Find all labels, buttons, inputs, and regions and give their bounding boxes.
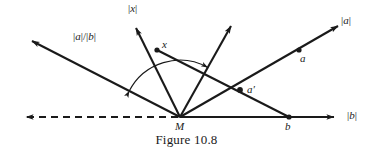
label-point-a: a [300, 53, 306, 64]
label-ray-a-magnitude: |a| [341, 15, 351, 26]
ray-x [136, 28, 180, 117]
point-dot-a-prime [237, 87, 243, 93]
point-dot-b [286, 114, 291, 119]
label-point-b: b [285, 121, 291, 132]
figure-drawing-canvas [0, 0, 373, 154]
ray-a [180, 26, 338, 117]
label-ray-b-magnitude: |b| [347, 110, 357, 121]
segment-x-b [157, 50, 289, 117]
figure-caption: Figure 10.8 [0, 132, 373, 148]
label-point-a-prime: a′ [247, 84, 255, 95]
point-dot-x [154, 47, 159, 52]
label-ray-ratio: |a|/|b| [73, 31, 96, 42]
label-point-m: M [175, 121, 184, 132]
figure-10-8: |x| |a| |b| |a|/|b| x a a′ b M Figure 10… [0, 0, 373, 154]
label-ray-x-magnitude: |x| [128, 3, 137, 14]
label-point-x: x [162, 39, 167, 50]
angle-arc [129, 60, 207, 91]
